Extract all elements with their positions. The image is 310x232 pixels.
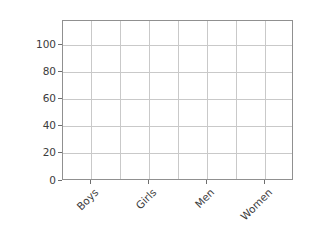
x-tick-mark-boys: [90, 180, 91, 184]
y-tick-label-80: 80: [16, 66, 56, 77]
x-tick-mark-girls: [148, 180, 149, 184]
y-tick-label-0: 0: [16, 175, 56, 186]
plot-area: [62, 20, 293, 180]
grid-line-horizontal: [63, 126, 292, 127]
grid-line-horizontal: [63, 99, 292, 100]
y-tick-label-20: 20: [16, 147, 56, 158]
chart-figure: Number of passengers 100 80 60 40 20 0 B…: [0, 0, 310, 232]
x-tick-mark-men: [206, 180, 207, 184]
grid-line-horizontal: [63, 153, 292, 154]
y-tick-label-40: 40: [16, 120, 56, 131]
x-tick-label-men: Men: [178, 186, 216, 224]
x-tick-label-girls: Girls: [120, 186, 158, 224]
x-tick-label-boys: Boys: [62, 186, 100, 224]
x-tick-label-men-text: Men: [192, 186, 216, 210]
x-tick-label-women: Women: [232, 186, 274, 228]
grid-line-horizontal: [63, 72, 292, 73]
y-tick-mark-0: [58, 180, 62, 181]
x-tick-label-women-text: Women: [238, 186, 274, 222]
x-tick-label-girls-text: Girls: [133, 186, 158, 211]
y-tick-label-60: 60: [16, 93, 56, 104]
grid-line-horizontal: [63, 45, 292, 46]
y-tick-label-100: 100: [16, 39, 56, 50]
x-tick-label-boys-text: Boys: [74, 186, 100, 212]
x-tick-mark-women: [264, 180, 265, 184]
